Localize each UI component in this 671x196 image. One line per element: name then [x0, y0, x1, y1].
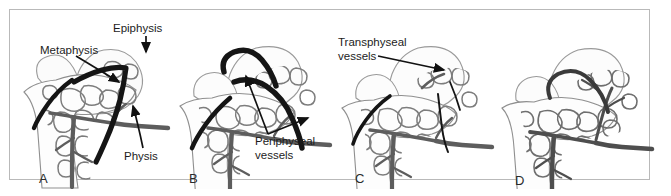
label-metaphysis: Metaphysis	[40, 44, 98, 58]
panel-d: D	[498, 20, 658, 189]
figure-container: A	[0, 0, 671, 196]
label-physis: Physis	[124, 150, 158, 164]
panel-d-illustration	[498, 20, 658, 189]
panel-letter-d: D	[515, 174, 525, 187]
panel-letter-c: C	[355, 172, 365, 185]
panel-letter-b: B	[189, 172, 198, 185]
label-periphyseal-vessels-line2: vessels	[255, 149, 293, 163]
panel-b: B	[178, 20, 338, 189]
label-transphyseal-vessels-line2: vessels	[338, 50, 376, 64]
label-periphyseal-vessels-line1: Periphyseal	[255, 135, 315, 149]
figure-border-frame: A	[9, 9, 650, 180]
label-transphyseal-vessels-line1: Transphyseal	[338, 36, 407, 50]
label-epiphysis: Epiphysis	[113, 22, 162, 36]
panel-letter-a: A	[39, 172, 48, 185]
panel-b-illustration	[178, 20, 338, 189]
